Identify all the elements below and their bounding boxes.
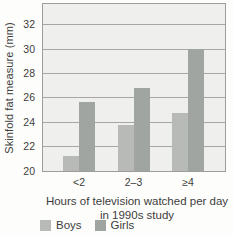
y-tick-label: 26 [0, 91, 35, 104]
girls-series-swatch-icon [95, 220, 106, 231]
x-axis-tick-labels: <22–3≥4 [43, 176, 225, 189]
x-axis-title-line1: Hours of television watched per day [41, 195, 233, 209]
y-tick-label: 22 [0, 140, 35, 153]
legend-item-girls: Girls [95, 219, 135, 231]
boys-series-swatch-icon [40, 220, 51, 231]
plot-area [42, 3, 226, 172]
girls-bar [79, 102, 95, 171]
gridline [43, 24, 225, 25]
x-tick-label: 2–3 [125, 176, 143, 189]
y-axis-tick-labels: 20222426283032 [0, 4, 38, 171]
y-tick-label: 20 [0, 165, 35, 178]
girls-bar [134, 88, 150, 171]
legend-label-girls: Girls [111, 219, 135, 231]
x-tick-label: <2 [73, 176, 85, 189]
boys-bar [172, 113, 188, 172]
x-axis-title: Hours of television watched per day in 1… [41, 195, 233, 222]
legend-label-boys: Boys [56, 219, 82, 231]
skinfold-fat-bar-chart: Skinfold fat measure (mm) 20222426283032… [0, 0, 233, 235]
y-tick-label: 32 [0, 18, 35, 31]
y-tick-label: 28 [0, 67, 35, 80]
legend-item-boys: Boys [40, 219, 82, 231]
girls-bar [188, 49, 204, 171]
legend: Boys Girls [40, 219, 134, 231]
y-tick-label: 24 [0, 116, 35, 129]
y-tick-label: 30 [0, 43, 35, 56]
boys-bar [63, 156, 79, 171]
boys-bar [118, 125, 134, 171]
x-tick-label: ≥4 [182, 176, 194, 189]
